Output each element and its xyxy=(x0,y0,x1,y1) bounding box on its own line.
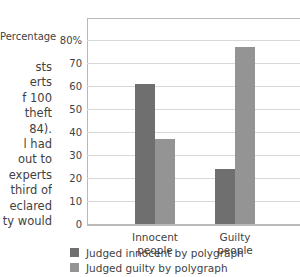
y-axis-tick-label: 10 xyxy=(69,196,82,207)
body-text-line: erts xyxy=(0,75,52,90)
body-text-line: l had xyxy=(0,137,52,152)
legend-item: Judged innocent by polygraph xyxy=(70,245,244,260)
legend-swatch xyxy=(70,248,79,257)
gridline xyxy=(87,201,300,202)
gridline xyxy=(87,132,300,133)
gridline xyxy=(87,40,300,41)
bar-group: Guiltypeople xyxy=(215,40,255,224)
bar xyxy=(215,169,235,224)
y-axis-tick-label: 70 xyxy=(69,58,82,69)
bar xyxy=(155,139,175,224)
y-axis-tick-label: 30 xyxy=(69,150,82,161)
body-text-line: eclared xyxy=(0,199,52,214)
gridline xyxy=(87,224,300,226)
legend-swatch xyxy=(70,263,79,272)
legend-item: Judged guilty by polygraph xyxy=(70,260,244,275)
bar xyxy=(135,84,155,224)
y-axis-tick-label: 50 xyxy=(69,104,82,115)
x-axis-category-line: Guilty xyxy=(175,231,295,244)
body-text-line: out to xyxy=(0,152,52,167)
body-text-line: experts xyxy=(0,168,52,183)
bar xyxy=(235,47,255,224)
y-axis-tick-label: 0 xyxy=(76,219,82,230)
chart-legend: Judged innocent by polygraphJudged guilt… xyxy=(70,245,244,275)
y-axis-tick-label: 80% xyxy=(60,35,82,46)
y-axis-tick-label: 60 xyxy=(69,81,82,92)
body-text-line: 84). xyxy=(0,122,52,137)
y-axis-tick-label: 20 xyxy=(69,173,82,184)
bar-chart: 80%706050403020100InnocentpeopleGuiltype… xyxy=(58,14,300,277)
body-text-line: f 100 xyxy=(0,91,52,106)
body-text-line: theft xyxy=(0,106,52,121)
y-axis-tick-label: 40 xyxy=(69,127,82,138)
plot-area: 80%706050403020100InnocentpeopleGuiltype… xyxy=(87,40,300,224)
gridline xyxy=(87,86,300,87)
body-text-line: sts xyxy=(0,60,52,75)
bar-group: Innocentpeople xyxy=(135,40,175,224)
y-axis-title: Percentage xyxy=(0,31,56,42)
gridline xyxy=(87,178,300,179)
legend-label: Judged guilty by polygraph xyxy=(86,262,228,274)
gridline xyxy=(87,63,300,64)
body-text-line: ty would xyxy=(0,214,52,229)
body-text-line: third of xyxy=(0,183,52,198)
gridline xyxy=(87,155,300,156)
gridline xyxy=(87,109,300,110)
legend-label: Judged innocent by polygraph xyxy=(86,247,244,259)
body-text-column: stsertsf 100 theft84).l hadout toexperts… xyxy=(0,60,52,229)
